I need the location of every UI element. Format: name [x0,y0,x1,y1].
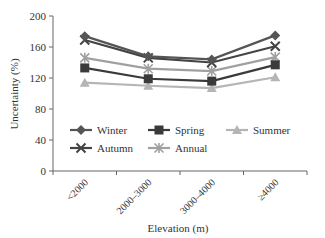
legend-label: Winter [97,124,127,136]
data-point-marker [271,60,280,69]
legend-label: Autumn [97,142,134,154]
y-tick-label: 40 [35,134,47,146]
data-point-marker [80,31,90,41]
y-axis: 04080120160200 [30,10,54,177]
legend-label: Summer [253,124,291,136]
uncertainty-line-chart: 04080120160200 <20002000–30003000–4000≥4… [0,0,325,238]
y-tick-label: 160 [30,41,47,53]
y-tick-label: 80 [35,103,47,115]
data-point-marker [76,125,86,135]
y-tick-label: 0 [41,165,47,177]
x-axis: <20002000–30003000–4000≥4000 [53,171,307,216]
series-layer [80,30,281,92]
legend: WinterSpringSummerAutumnAnnual [70,124,291,154]
legend-item-summer: Summer [226,124,291,136]
y-axis-title: Uncertainty (%) [8,58,21,129]
x-tick-label: ≥4000 [255,177,281,203]
series-summer [80,72,281,92]
data-point-marker [144,74,153,83]
x-tick-label: 2000–3000 [114,177,154,217]
legend-label: Spring [175,124,205,136]
x-axis-title: Elevation (m) [148,222,209,235]
legend-item-annual: Annual [148,142,207,154]
data-point-marker [207,77,216,86]
legend-item-autumn: Autumn [70,142,134,154]
x-tick-label: 3000–4000 [178,177,218,217]
legend-label: Annual [175,142,207,154]
data-point-marker [80,63,89,72]
x-tick-label: <2000 [64,177,90,203]
y-tick-label: 200 [30,10,47,22]
y-tick-label: 120 [30,72,47,84]
legend-item-spring: Spring [148,124,205,136]
data-point-marker [143,51,153,61]
legend-item-winter: Winter [70,124,127,136]
data-point-marker [270,30,280,40]
data-point-marker [155,126,164,135]
